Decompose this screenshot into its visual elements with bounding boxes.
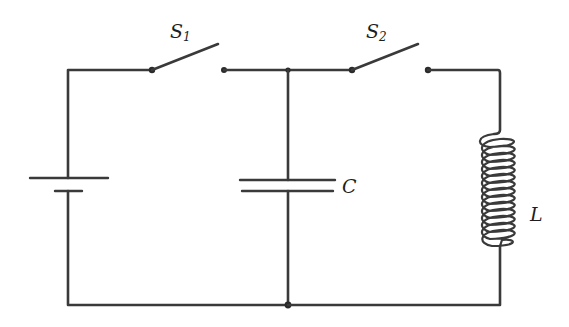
inductor-coil [480, 134, 515, 246]
switch-s2-label-main: S [366, 20, 379, 42]
switch-s1-label: S1 [170, 22, 191, 43]
wire-left-top [68, 70, 152, 178]
switch-s2-blade [352, 44, 418, 70]
wire-right-top [428, 70, 500, 134]
circuit-diagram [0, 0, 569, 327]
switch-s1-label-main: S [170, 20, 183, 42]
switch-s2-label: S2 [366, 22, 387, 43]
switch-s1-label-sub: 1 [183, 30, 191, 44]
wire-right-bottom [288, 246, 500, 305]
switch-s1 [149, 44, 227, 73]
switch-s1-blade [152, 44, 218, 70]
wire-left-bottom [68, 191, 288, 305]
switch-s2-label-sub: 2 [379, 30, 387, 44]
battery-branch [30, 70, 288, 305]
capacitor-label: C [342, 177, 357, 196]
inductor-label: L [530, 205, 543, 224]
switch-s2 [349, 44, 431, 73]
capacitor-branch [240, 70, 335, 305]
inductor-branch [288, 70, 515, 305]
